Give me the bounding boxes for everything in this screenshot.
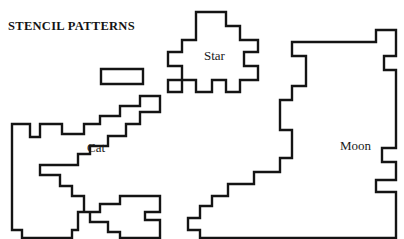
cat-shape-label: Cat (87, 140, 105, 156)
stencil-patterns-page: STENCIL PATTERNS Cat Star Moon (0, 0, 404, 239)
stencil-shapes-canvas (0, 0, 404, 239)
moon-shape-label: Moon (340, 138, 371, 154)
cat-rectangle-shape (101, 69, 143, 84)
star-shape-label: Star (204, 48, 225, 64)
cat-stencil-shape (12, 96, 160, 238)
